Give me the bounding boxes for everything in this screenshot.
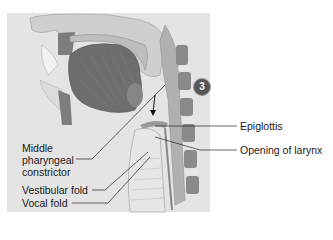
- label-vestibular-fold: Vestibular fold: [22, 184, 88, 196]
- lingual-tonsil: [127, 83, 143, 107]
- arrow-head-icon: [150, 110, 156, 116]
- mandible-bone-icon: [58, 90, 72, 125]
- label-opening-of-larynx: Opening of larynx: [240, 144, 322, 156]
- epiglottis-structure: [140, 121, 168, 129]
- label-middle-pharyngeal-line3: constrictor: [22, 166, 70, 178]
- larynx-structure: [128, 128, 165, 212]
- label-vocal-fold: Vocal fold: [22, 197, 68, 209]
- step-number-badge: 3: [193, 78, 211, 96]
- label-middle-pharyngeal-line2: pharyngeal: [22, 154, 74, 166]
- upper-teeth: [42, 45, 58, 75]
- label-epiglottis: Epiglottis: [240, 120, 283, 132]
- label-middle-pharyngeal-line1: Middle: [22, 142, 53, 154]
